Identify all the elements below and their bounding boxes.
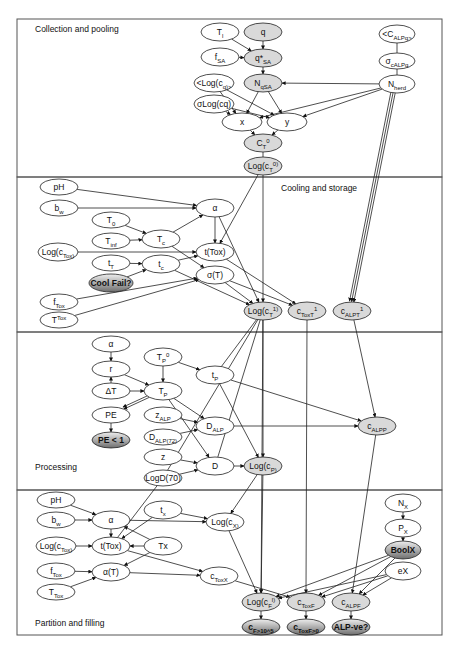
edge-Nherd-cALPT1 [350,92,391,301]
node-zALP: zALP​ [144,407,182,423]
node-PE: PE [92,407,130,423]
node-alpha2: α [92,336,130,352]
node-label: Cool Fail? [90,278,131,288]
edge-Tc-alpha1 [173,215,203,232]
node-LogD70: LogD(70) [144,470,182,486]
node-label: σ(T) [207,270,223,280]
node-q: q [244,23,282,41]
node-tT: tT​ [92,255,130,271]
node-label: BoolX [391,545,416,555]
edge-Tl-qSA [232,39,252,51]
edge-z-D [181,460,198,463]
node-label: z [161,452,165,462]
node-tTox2: t(Tox) [92,537,130,555]
edge-LogcT1-D [218,320,260,457]
section-label-collection: Collection and pooling [35,24,119,34]
node-T0: T0​ [92,212,130,228]
edge-zALP-DALP [180,419,198,423]
node-BoolX: BoolX [385,541,421,559]
node-z: z [144,449,182,465]
node-PX: PX​ [385,519,421,537]
node-tP: tP​ [196,366,234,384]
node-LogcX: Log(cX​)​ [206,513,244,531]
node-qSA: q*SA​ [244,49,282,67]
node-dT: ΔT [92,383,130,399]
edge-alpha3-LogcX [130,520,206,521]
node-Tinf: Tinf​ [92,233,130,249]
edge-Nherd-NqSA [282,83,379,84]
edge-Nherd-cALPT1 [354,93,395,302]
node-label: ALP-ve? [334,622,368,632]
node-cFgt: cF​>10^5​ [242,619,280,635]
edge-Tx-alphaT [124,553,150,566]
edge-TP-PE [124,397,150,409]
sections-layer: Collection and poolingCooling and storag… [17,19,442,635]
node-fTox1: fTox​ [40,294,78,310]
node-CALPq: <CALPq​>​ [379,25,415,43]
node-label: Log(cF​l)​ [247,597,275,609]
bayesian-network-diagram: Collection and poolingCooling and storag… [0,0,457,658]
section-label-partition: Partition and filling [35,618,105,628]
edge-sLogcq-x [226,111,231,114]
edge-pH1-alpha1 [77,189,197,205]
edge-cALPP-cALPF [352,435,375,593]
edge-DALP72-DALP [180,430,198,434]
node-alphaT: α(T) [92,563,130,581]
node-sigmaT: σ(T) [196,266,234,284]
edge-x-CT0 [250,130,255,135]
edge-LogcX-LogcF [229,531,257,593]
edge-T0-Tc [125,225,146,233]
edge-NqSA-x [247,92,259,114]
node-label: t(Tox) [100,541,121,551]
node-CoolFail: Cool Fail? [89,274,133,292]
node-NX: NX​ [385,494,421,512]
node-LogcT1: Log(cT​1)​ [244,302,282,320]
node-label: r [110,364,113,374]
node-Nherd: Nherd​ [379,75,415,93]
node-cToxX: cToxX​ [200,567,238,585]
node-cToxFgt: cToxF​>0​ [287,619,325,635]
nodes-layer: Tl​qfSA​q*SA​<Log(cq​)>​NqSA​σLog(cq)xyC… [36,23,421,635]
node-cALPF: cALPF​ [332,593,370,611]
node-NqSA: NqSA​ [244,74,282,92]
node-sALPq: σcALPq​ [379,53,415,69]
section-label-cooling: Cooling and storage [281,183,357,193]
node-cToxT1: cToxT​1​ [288,302,326,320]
edge-CoolFail-tc [127,270,146,277]
node-label: Tx [158,541,168,551]
edge-pH2-alpha3 [70,505,96,514]
edge-alphaT-cToxX [130,573,200,576]
node-y: y [267,113,307,131]
node-label: T0​ [107,215,116,227]
node-LogcTox1: Log(cTox​)​ [38,243,78,261]
edge-LogcP-LogcX [231,475,257,514]
edge-cALPT1-cALPP [354,320,375,417]
node-r: r [92,361,130,377]
node-ALPve: ALP-ve? [332,619,370,635]
section-box-partition [17,490,442,635]
node-TTox2: TTox​ [37,584,75,600]
edge-LogcT1-LogD70 [168,320,258,471]
edge-TP0-tP [178,362,199,369]
node-eX: eX [385,562,421,580]
node-fTox2: fTox​ [37,563,75,579]
node-label: pH [54,182,65,192]
edge-LogD70-D [180,470,198,474]
node-label: α [109,515,114,525]
edge-Nherd-cALPT1 [352,93,394,302]
node-label: LogD(70) [145,473,181,483]
edge-tc-tTox1 [178,256,198,260]
node-TP0: TP​0​ [144,348,182,366]
node-TP: TP​ [144,382,182,400]
node-fSA: fSA​ [201,48,239,66]
node-label: α [109,339,114,349]
node-alpha1: α [196,199,234,217]
section-label-processing: Processing [35,462,77,472]
edge-tP-cALPP [231,380,361,421]
node-tx: tx​ [144,501,182,519]
edge-cToxT1-cToxF [306,320,307,593]
node-CT0: CT​0​ [244,134,282,152]
node-LogcP: Log(cP​)​ [244,457,282,475]
node-TTox1: TTox​ [40,312,78,328]
node-label: PE < 1 [98,435,124,445]
